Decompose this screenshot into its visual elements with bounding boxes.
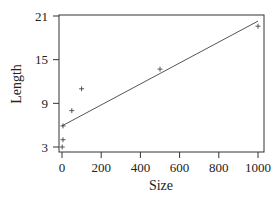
- x-tick-label: 400: [131, 160, 151, 175]
- data-point: [60, 137, 65, 142]
- y-tick-label: 9: [42, 96, 49, 111]
- x-axis: 02004006008001000: [59, 152, 271, 175]
- data-point: [60, 145, 65, 150]
- data-points: [60, 24, 261, 150]
- x-axis-title: Size: [149, 178, 173, 193]
- data-point: [79, 86, 84, 91]
- scatter-chart: 391521 02004006008001000 Size Length: [0, 0, 278, 199]
- x-tick-label: 600: [170, 160, 190, 175]
- x-tick-label: 1000: [245, 160, 271, 175]
- data-point: [158, 67, 163, 72]
- y-tick-label: 3: [42, 140, 49, 155]
- x-tick-label: 800: [209, 160, 229, 175]
- plot-frame: [59, 15, 264, 152]
- data-point: [69, 108, 74, 113]
- y-axis: 391521: [35, 9, 59, 155]
- data-point: [256, 24, 261, 29]
- x-tick-label: 200: [91, 160, 111, 175]
- y-axis-title: Length: [9, 64, 24, 104]
- y-tick-label: 15: [35, 52, 48, 67]
- y-tick-label: 21: [35, 9, 48, 24]
- x-tick-label: 0: [59, 160, 66, 175]
- fitted-line: [62, 21, 258, 126]
